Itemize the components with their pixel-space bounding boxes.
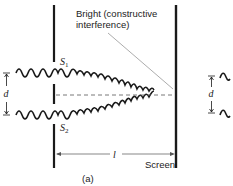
figure-caption: (a) — [82, 173, 94, 184]
annotation-line2: interference) — [76, 19, 129, 30]
separation-label-right: d — [209, 88, 215, 99]
distance-label: l — [113, 149, 116, 160]
separation-label-left: d — [4, 88, 10, 99]
partial-panel-b: d — [208, 73, 230, 117]
slit1-label: S1 — [60, 56, 69, 69]
partial-wave-lower — [220, 110, 230, 117]
double-slit-diagram: S1 S2 d Bright (constructive interferenc… — [0, 0, 233, 186]
slit2-label: S2 — [60, 122, 69, 135]
annotation-line1: Bright (constructive — [76, 8, 157, 19]
upper-wave — [16, 69, 154, 91]
partial-wave-upper — [220, 73, 230, 80]
screen-label: Screen — [145, 159, 175, 170]
